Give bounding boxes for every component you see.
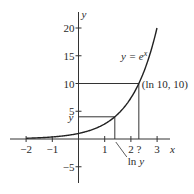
curve-label: y = ex: [120, 49, 148, 62]
y-tick-label: 15: [64, 50, 76, 62]
x-tick-label: −2: [20, 143, 32, 155]
y-axis-label: y: [81, 8, 87, 20]
y-tick-label: 10: [64, 78, 76, 90]
x-tick-label: 2: [128, 143, 134, 155]
x-axis-label: x: [169, 143, 175, 155]
x-tick-label: 3: [154, 143, 160, 155]
ln-y-label: ln y: [128, 155, 144, 167]
question-mark-label: ?: [136, 143, 141, 155]
point-label: (ln 10, 10): [142, 78, 188, 91]
y-tick-label: −5: [63, 161, 75, 173]
exp-function-plot: −2−11232015105−5xyyln y?(ln 10, 10)y = e…: [0, 0, 194, 194]
x-tick-label: 1: [102, 143, 108, 155]
labels: −2−11232015105−5xyyln y?(ln 10, 10)y = e…: [20, 8, 188, 173]
y-marker-label: y: [68, 111, 74, 123]
x-tick-label: −1: [46, 143, 58, 155]
axes: [10, 12, 170, 183]
ln-y-pointer: [116, 142, 127, 157]
y-tick-label: 20: [64, 22, 76, 34]
chart-root: −2−11232015105−5xyyln y?(ln 10, 10)y = e…: [0, 0, 194, 194]
